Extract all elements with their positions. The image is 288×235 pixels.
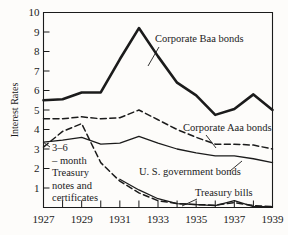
y-tick-label: 1: [34, 182, 40, 194]
y-tick-label: 10: [29, 6, 41, 18]
corporate-baa-bonds-label: Corporate Baa bonds: [155, 33, 244, 44]
y-tick-label: 2: [34, 162, 40, 174]
x-tick-label: 1931: [109, 213, 131, 225]
x-tick-label: 1933: [147, 213, 170, 225]
y-tick-label: 5: [34, 104, 40, 116]
chart-canvas: 12345678910 1927192919311933193519371939…: [0, 0, 288, 235]
x-tick-label: 1937: [223, 213, 246, 225]
y-tick-label: 9: [34, 26, 40, 38]
x-tick-label: 1929: [71, 213, 94, 225]
y-tick-label: 3: [34, 143, 40, 155]
corporate-aaa-bonds-label: Corporate Aaa bonds: [183, 122, 272, 133]
y-tick-label: 6: [34, 84, 40, 96]
y-tick-label: 7: [34, 65, 40, 77]
x-axis-tick-labels: 1927192919311933193519371939: [33, 213, 285, 225]
treasury-bills-label: Treasury bills: [195, 187, 253, 198]
us-government-bonds-label: U. S. government bonds: [139, 166, 241, 177]
x-tick-label: 1935: [185, 213, 208, 225]
x-tick-label: 1939: [262, 213, 285, 225]
interest-rates-figure: 12345678910 1927192919311933193519371939…: [0, 0, 288, 235]
y-axis-tick-labels: 12345678910: [29, 6, 41, 194]
x-tick-label: 1927: [33, 213, 56, 225]
y-tick-label: 8: [34, 45, 40, 57]
treasury-notes-annotation: 3–6– monthTreasurynotes andcertificates: [51, 142, 98, 203]
y-axis-title: Interest Rates: [9, 83, 20, 138]
y-tick-label: 4: [34, 123, 40, 135]
